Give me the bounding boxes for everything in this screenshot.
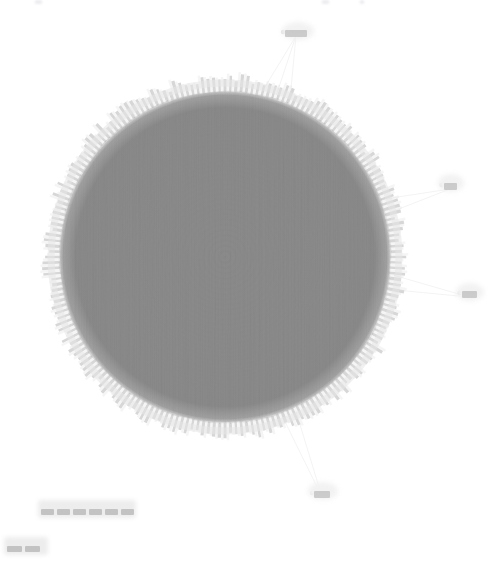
node-right2-label[interactable] <box>462 291 477 298</box>
top-faint-mark-right <box>322 0 329 4</box>
list-item[interactable] <box>105 509 118 515</box>
label-group-corner[interactable] <box>7 546 40 552</box>
list-item[interactable] <box>89 509 102 515</box>
list-item[interactable] <box>121 509 134 515</box>
node-right1-label[interactable] <box>444 183 457 190</box>
top-faint-mark-left <box>35 0 42 4</box>
label-group-lower[interactable] <box>41 509 134 515</box>
node-top-label[interactable] <box>285 30 307 37</box>
list-item[interactable] <box>73 509 86 515</box>
top-faint-mark-far-right <box>360 0 364 4</box>
list-item[interactable] <box>57 509 70 515</box>
list-item[interactable] <box>25 546 40 552</box>
list-item[interactable] <box>7 546 22 552</box>
node-bottom-label[interactable] <box>314 491 330 498</box>
list-item[interactable] <box>41 509 54 515</box>
network-graph-canvas[interactable] <box>0 0 495 562</box>
